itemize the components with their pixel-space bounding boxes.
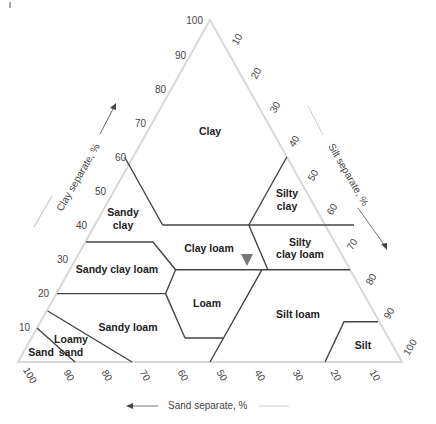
sand-tick: 90 bbox=[61, 368, 76, 384]
sand-axis-title: Sand separate, % bbox=[168, 400, 248, 411]
silt-tick: 100 bbox=[401, 337, 419, 357]
label-sand: Sand bbox=[28, 346, 54, 358]
clay-axis-arrow-line bbox=[34, 196, 52, 227]
sand-tick: 10 bbox=[367, 368, 382, 384]
silt-tick: 80 bbox=[363, 271, 378, 287]
arrow-down-icon bbox=[381, 243, 387, 250]
sand-tick: 100 bbox=[21, 365, 39, 385]
label-sandy-clay: clay bbox=[113, 219, 134, 231]
label-clay: Clay bbox=[199, 125, 221, 137]
label-silty-clay: Silty bbox=[276, 187, 298, 199]
clay-axis-ticks: 10 20 30 40 50 60 70 80 90 100 bbox=[19, 15, 204, 333]
region-boundaries bbox=[37, 157, 378, 362]
label-clay-loam: Clay loam bbox=[184, 242, 234, 254]
sand-tick: 70 bbox=[137, 368, 152, 384]
clay-tick: 30 bbox=[57, 254, 69, 265]
arrow-up-icon bbox=[110, 103, 116, 110]
label-sandy-clay: Sandy bbox=[107, 206, 139, 218]
clay-tick: 90 bbox=[175, 50, 187, 61]
label-loamy-sand: Loamy bbox=[54, 333, 88, 345]
silt-tick: 20 bbox=[248, 65, 263, 81]
label-silty-clay-loam: clay loam bbox=[276, 248, 324, 260]
silt-axis-title: Silt separate, % bbox=[326, 142, 371, 208]
sand-axis-ticks: 100 90 80 70 60 50 40 30 20 10 bbox=[21, 365, 383, 385]
arrow-left-icon bbox=[126, 403, 133, 409]
label-silt: Silt bbox=[355, 339, 372, 351]
label-silt-loam: Silt loam bbox=[276, 308, 320, 320]
region-labels: Clay Sandy clay Silty clay Clay loam Sil… bbox=[28, 125, 372, 358]
silt-tick: 40 bbox=[286, 133, 301, 149]
label-silty-clay-loam: Silty bbox=[289, 236, 311, 248]
boundary-clay-loam-silty-clay-loam bbox=[249, 225, 268, 270]
silt-axis-title-group: Silt separate, % bbox=[308, 106, 387, 250]
clay-tick: 40 bbox=[76, 220, 88, 231]
clay-tick: 10 bbox=[19, 322, 31, 333]
sand-tick: 30 bbox=[290, 368, 305, 384]
boundary-loam-silt-loam bbox=[210, 270, 262, 362]
clay-axis-arrow bbox=[100, 107, 114, 134]
clay-tick: 60 bbox=[115, 152, 127, 163]
silt-axis-ticks: 10 20 30 40 50 60 70 80 90 100 bbox=[229, 31, 419, 357]
sand-tick: 20 bbox=[328, 368, 343, 384]
sample-marker-triangle bbox=[241, 254, 253, 266]
silt-axis-arrow bbox=[358, 208, 385, 246]
sand-tick: 60 bbox=[175, 368, 190, 384]
silt-tick: 10 bbox=[229, 31, 244, 47]
boundary-loam-left bbox=[166, 294, 185, 338]
clay-axis-title: Clay separate, % bbox=[54, 141, 102, 213]
silt-axis-line bbox=[308, 106, 323, 135]
label-sandy-loam: Sandy loam bbox=[99, 321, 158, 333]
soil-texture-triangle: 10 20 30 40 50 60 70 80 90 100 10 20 30 … bbox=[0, 0, 436, 424]
label-sandy-clay-loam: Sandy clay loam bbox=[76, 263, 158, 275]
silt-tick: 60 bbox=[324, 201, 339, 217]
silt-tick: 50 bbox=[305, 167, 320, 183]
sand-axis-title-group: Sand separate, % bbox=[126, 400, 289, 411]
silt-tick: 30 bbox=[267, 99, 282, 115]
clay-tick: 50 bbox=[95, 186, 107, 197]
sand-tick: 80 bbox=[99, 368, 114, 384]
label-silty-clay: clay bbox=[277, 200, 298, 212]
sand-tick: 40 bbox=[252, 368, 267, 384]
sand-tick: 50 bbox=[214, 368, 229, 384]
silt-tick: 70 bbox=[344, 236, 359, 252]
silt-tick: 90 bbox=[381, 305, 396, 321]
label-loamy-sand: sand bbox=[59, 346, 84, 358]
label-loam: Loam bbox=[193, 297, 221, 309]
clay-tick: 100 bbox=[186, 15, 203, 26]
clay-tick: 80 bbox=[155, 84, 167, 95]
clay-tick: 70 bbox=[135, 118, 147, 129]
clay-tick: 20 bbox=[38, 288, 50, 299]
